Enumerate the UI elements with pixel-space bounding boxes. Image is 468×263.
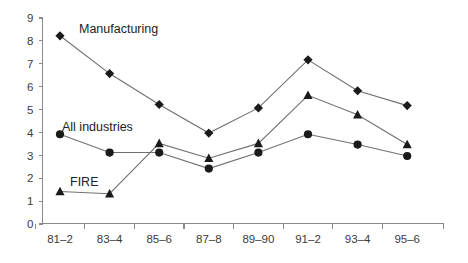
data-point-circle	[354, 140, 362, 148]
data-point-circle	[205, 164, 213, 172]
data-point-diamond	[105, 69, 114, 78]
y-tick-label: 4	[27, 127, 34, 139]
data-point-circle	[155, 148, 163, 156]
y-tick-label: 3	[27, 150, 33, 162]
x-tick-label: 85–6	[146, 233, 172, 245]
data-point-diamond	[353, 86, 362, 95]
x-tick-label: 93–4	[345, 233, 371, 245]
y-tick-label: 9	[27, 12, 33, 24]
x-tick-label: 89–90	[242, 233, 274, 245]
y-tick-label: 7	[27, 58, 33, 70]
y-tick-label: 6	[27, 81, 33, 93]
data-point-circle	[106, 148, 114, 156]
y-tick-label: 0	[27, 218, 33, 230]
x-tick-label: 87–8	[196, 233, 222, 245]
y-tick-label: 2	[27, 172, 33, 184]
data-point-diamond	[55, 31, 64, 40]
x-axis: 81–283–485–687–889–9091–293–495–6	[35, 224, 443, 245]
x-tick-label: 81–2	[47, 233, 73, 245]
series-label: Manufacturing	[79, 22, 158, 36]
line-chart: 0123456789 81–283–485–687–889–9091–293–4…	[0, 0, 468, 263]
data-point-diamond	[155, 100, 164, 109]
data-point-circle	[403, 152, 411, 160]
series-label: All industries	[62, 120, 133, 134]
data-point-diamond	[403, 101, 412, 110]
data-point-triangle	[353, 110, 362, 119]
data-point-circle	[304, 130, 312, 138]
data-point-diamond	[204, 128, 213, 137]
data-point-circle	[254, 148, 262, 156]
x-tick-label: 91–2	[295, 233, 321, 245]
x-tick-label: 83–4	[97, 233, 123, 245]
data-point-triangle	[403, 140, 412, 149]
chart-figure: 0123456789 81–283–485–687–889–9091–293–4…	[0, 0, 468, 263]
series-layer	[55, 31, 411, 197]
x-tick-label: 95–6	[394, 233, 420, 245]
y-tick-label: 1	[27, 195, 33, 207]
data-point-triangle	[303, 91, 312, 100]
y-tick-label: 8	[27, 35, 33, 47]
data-point-triangle	[155, 139, 164, 148]
series-label: FIRE	[70, 175, 98, 189]
series-annotations: ManufacturingAll industriesFIRE	[62, 22, 158, 189]
data-point-triangle	[55, 187, 64, 196]
y-tick-label: 5	[27, 104, 33, 116]
y-axis: 0123456789	[27, 12, 42, 230]
